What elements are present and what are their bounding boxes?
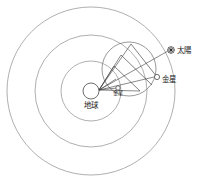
- sight-line-epicycle-left: [99, 66, 114, 90]
- inner-venus-label: 金星: [113, 89, 123, 96]
- earth-marker: [83, 83, 99, 99]
- earth-label: 地球: [84, 100, 99, 110]
- earth-group: 地球: [83, 83, 99, 110]
- venus-group: 金星: [154, 74, 177, 84]
- venus-label: 金星: [162, 74, 177, 84]
- epicycle-chord-c: [121, 55, 152, 85]
- sight-line-to-sun: [99, 51, 168, 90]
- sun-group: 太陽: [168, 45, 193, 55]
- inner-venus-group: 金星: [113, 86, 123, 96]
- geocentric-orbit-diagram: 地球 金星 太陽 金星: [0, 0, 197, 188]
- venus-marker: [154, 74, 159, 79]
- sun-label: 太陽: [177, 45, 192, 55]
- orbit-diagram-canvas: 地球 金星 太陽 金星: [0, 0, 197, 188]
